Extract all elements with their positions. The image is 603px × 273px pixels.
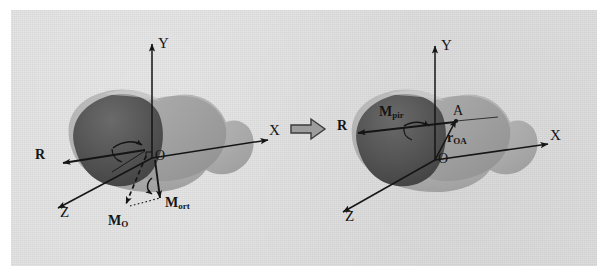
left-x-axis-label: X: [269, 123, 280, 138]
left-body-shape: [69, 90, 254, 192]
right-x-axis-label: X: [550, 128, 561, 143]
left-MO-Mort-connector: [130, 198, 160, 206]
left-Mort-subscript: ort: [178, 201, 190, 211]
right-rOA-label: rOA: [447, 131, 467, 146]
left-z-axis-label: Z: [60, 205, 69, 220]
point-A-marker: [454, 119, 458, 123]
left-MO-label: MO: [108, 214, 128, 229]
left-MO-symbol: M: [108, 213, 121, 228]
point-A-label: A: [453, 104, 463, 118]
right-rOA-subscript: OA: [453, 136, 467, 146]
right-y-axis-label: Y: [441, 38, 452, 53]
left-Mort-symbol: M: [165, 195, 178, 210]
right-Mpir-label: Mpir: [379, 105, 404, 120]
left-y-axis-label: Y: [158, 36, 169, 51]
left-origin-label: O: [155, 149, 165, 163]
implies-arrow: [291, 119, 325, 139]
right-Mpir-subscript: pir: [392, 110, 404, 120]
left-MO-subscript: O: [121, 219, 128, 229]
left-R-label: R: [35, 148, 45, 162]
right-z-axis-label: Z: [345, 209, 354, 224]
right-Mpir-symbol: M: [379, 104, 392, 119]
right-origin-label: O: [438, 152, 448, 166]
left-Mort-label: Mort: [165, 196, 190, 211]
right-R-label: R: [337, 119, 347, 133]
diagram-vector-layer: [0, 0, 603, 273]
figure-canvas: Y X Z O R MO Mort Y X Z O A R Mpir rOA: [0, 0, 603, 273]
